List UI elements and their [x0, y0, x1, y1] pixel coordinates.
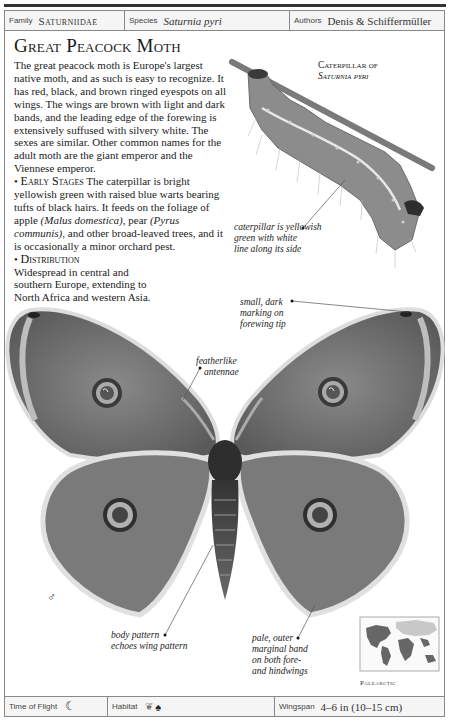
grass-icon: ❦ — [145, 701, 153, 712]
map-region-label: Palearctic — [360, 679, 396, 687]
distribution-heading: Distribution — [21, 252, 80, 266]
forewing-tip-leader-line — [292, 301, 408, 312]
time-of-flight-label: Time of Flight — [9, 702, 57, 711]
moon-icon: ☾ — [65, 699, 76, 714]
forewing-tip-annotation: small, dark marking on forewing tip — [240, 297, 286, 330]
wingspan-value: 4–6 in (10–15 cm) — [321, 701, 403, 713]
distribution-text: Widespread in central and southern Europ… — [14, 266, 164, 305]
footer-bar: Time of Flight ☾ Habitat ❦ ♠ Wingspan 4–… — [4, 696, 445, 717]
caterpillar-title-line2: Saturnia pyri — [318, 71, 378, 82]
caterpillar-title: Caterpillar of Saturnia pyri — [318, 60, 378, 82]
description: The great peacock moth is Europe's large… — [14, 59, 229, 304]
caterpillar-caption: caterpillar is yellowish green with whit… — [234, 222, 322, 255]
marginal-band-annotation: pale, outer marginal band on both fore- … — [252, 633, 308, 677]
time-of-flight-cell: Time of Flight ☾ — [5, 697, 108, 716]
bullet-icon: • — [14, 253, 18, 265]
caterpillar-leader-line — [303, 180, 345, 228]
page-title: Great Peacock Moth — [14, 35, 181, 57]
intro-text: The great peacock moth is Europe's large… — [14, 59, 226, 174]
male-symbol-icon: ♂ — [47, 590, 56, 605]
bullet-icon: • — [14, 175, 18, 187]
wingspan-cell: Wingspan 4–6 in (10–15 cm) — [275, 697, 444, 716]
palearctic-map — [360, 617, 439, 671]
early-stages-text-2: , pear — [123, 214, 147, 226]
tree-icon: ♠ — [155, 701, 161, 713]
latin-apple: (Malus domestica) — [41, 214, 123, 226]
early-stages-heading: Early Stages — [21, 174, 84, 188]
antennae-annotation: featherlike antennae — [196, 356, 239, 378]
caterpillar-title-line1: Caterpillar of — [318, 60, 378, 71]
body-pattern-annotation: body pattern echoes wing pattern — [111, 630, 188, 652]
habitat-label: Habitat — [112, 702, 137, 711]
wingspan-label: Wingspan — [279, 702, 315, 711]
habitat-cell: Habitat ❦ ♠ — [108, 697, 275, 716]
